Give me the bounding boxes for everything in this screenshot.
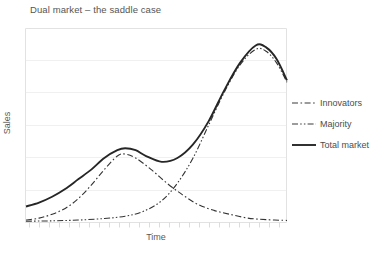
chart-legend: Innovators Majority Total market: [291, 92, 387, 158]
legend-item-innovators[interactable]: Innovators: [291, 92, 362, 113]
legend-key-majority-icon: [291, 118, 317, 130]
legend-item-total-market[interactable]: Total market: [291, 134, 369, 155]
chart-container: Dual market – the saddle case Sales Time: [0, 0, 390, 253]
legend-label-majority: Majority: [317, 119, 352, 129]
x-axis-ticks: [30, 223, 280, 228]
legend-key-innovators-icon: [291, 97, 317, 109]
legend-item-majority[interactable]: Majority: [291, 113, 352, 134]
legend-label-innovators: Innovators: [317, 98, 362, 108]
legend-label-total-market: Total market: [317, 140, 369, 150]
legend-key-total-market-icon: [291, 139, 317, 151]
